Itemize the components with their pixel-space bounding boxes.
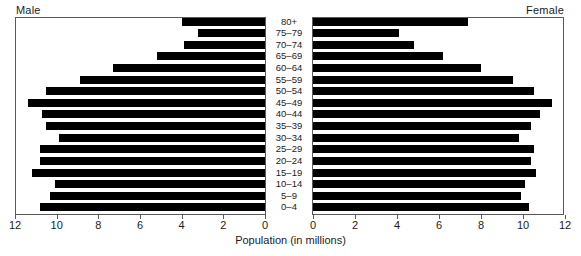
bar-male — [113, 64, 265, 72]
pyramid-row: 10–14 — [0, 180, 581, 188]
pyramid-row: 65–69 — [0, 52, 581, 60]
axis-tick-label: 12 — [553, 219, 577, 231]
x-axis-male: 121086420 — [0, 215, 290, 233]
bar-female — [313, 192, 521, 200]
bar-male — [28, 99, 266, 107]
female-axis-caption: Female — [526, 4, 564, 16]
pyramid-row: 35–39 — [0, 122, 581, 130]
bar-female — [313, 203, 529, 211]
x-axis-label: Population (in millions) — [0, 234, 581, 246]
bar-male — [40, 203, 265, 211]
bar-male — [40, 145, 265, 153]
bar-female — [313, 157, 531, 165]
age-group-label: 15–19 — [266, 167, 312, 178]
axis-tick-label: 8 — [469, 219, 493, 231]
axis-tick-label: 10 — [45, 219, 69, 231]
bar-male — [42, 110, 265, 118]
axis-tick-label: 4 — [170, 219, 194, 231]
bar-female — [313, 180, 525, 188]
bar-female — [313, 134, 519, 142]
axis-tick-label: 8 — [86, 219, 110, 231]
bar-female — [313, 64, 481, 72]
bar-female — [313, 169, 536, 177]
male-axis-caption: Male — [16, 4, 41, 16]
age-group-label: 75–79 — [266, 27, 312, 38]
pyramid-row: 50–54 — [0, 87, 581, 95]
bar-male — [198, 29, 265, 37]
pyramid-row: 0–4 — [0, 203, 581, 211]
age-group-label: 65–69 — [266, 50, 312, 61]
pyramid-row: 40–44 — [0, 110, 581, 118]
age-group-label: 40–44 — [266, 108, 312, 119]
axis-tick-label: 12 — [3, 219, 27, 231]
axis-tick-label: 4 — [385, 219, 409, 231]
bar-female — [313, 145, 534, 153]
age-group-label: 30–34 — [266, 132, 312, 143]
bar-female — [313, 29, 399, 37]
pyramid-row: 30–34 — [0, 134, 581, 142]
pyramid-row: 25–29 — [0, 145, 581, 153]
age-group-label: 70–74 — [266, 39, 312, 50]
axis-tick-label: 6 — [128, 219, 152, 231]
age-group-label: 35–39 — [266, 120, 312, 131]
age-group-label: 10–14 — [266, 178, 312, 189]
pyramid-row: 75–79 — [0, 29, 581, 37]
bar-male — [55, 180, 265, 188]
age-group-label: 80+ — [266, 16, 312, 27]
axis-tick-label: 6 — [427, 219, 451, 231]
bar-male — [184, 41, 265, 49]
bar-female — [313, 52, 443, 60]
pyramid-row: 5–9 — [0, 192, 581, 200]
pyramid-row: 15–19 — [0, 169, 581, 177]
bar-female — [313, 122, 531, 130]
chart-title: Canada: Census 2011 — [0, 0, 581, 1]
age-group-label: 25–29 — [266, 143, 312, 154]
age-group-label: 20–24 — [266, 155, 312, 166]
pyramid-bars: 80+75–7970–7465–6960–6455–5950–5445–4940… — [0, 17, 581, 215]
age-group-label: 55–59 — [266, 74, 312, 85]
axis-tick-label: 10 — [511, 219, 535, 231]
bar-male — [80, 76, 265, 84]
bar-male — [182, 18, 265, 26]
bar-male — [157, 52, 265, 60]
age-group-label: 60–64 — [266, 62, 312, 73]
bar-female — [313, 76, 513, 84]
bar-female — [313, 18, 468, 26]
bar-male — [40, 157, 265, 165]
bar-male — [59, 134, 265, 142]
age-group-label: 0–4 — [266, 201, 312, 212]
bar-female — [313, 110, 540, 118]
pyramid-row: 80+ — [0, 18, 581, 26]
pyramid-row: 45–49 — [0, 99, 581, 107]
axis-tick-label: 0 — [253, 219, 277, 231]
bar-male — [46, 122, 265, 130]
age-group-label: 45–49 — [266, 97, 312, 108]
axis-tick-label: 2 — [343, 219, 367, 231]
pyramid-row: 20–24 — [0, 157, 581, 165]
bar-female — [313, 41, 414, 49]
x-axis-female: 024681012 — [290, 215, 581, 233]
pyramid-row: 60–64 — [0, 64, 581, 72]
age-group-label: 5–9 — [266, 190, 312, 201]
axis-tick-label: 0 — [301, 219, 325, 231]
age-group-label: 50–54 — [266, 85, 312, 96]
bar-male — [50, 192, 265, 200]
bar-female — [313, 99, 552, 107]
bar-male — [46, 87, 265, 95]
pyramid-row: 55–59 — [0, 76, 581, 84]
pyramid-row: 70–74 — [0, 41, 581, 49]
bar-female — [313, 87, 534, 95]
axis-tick-label: 2 — [211, 219, 235, 231]
bar-male — [32, 169, 265, 177]
